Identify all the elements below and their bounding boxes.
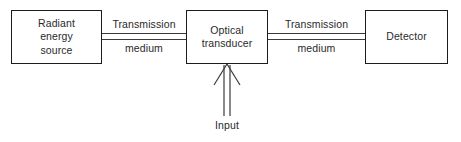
block-detector[interactable]: Detector [365,10,448,64]
connector-rule-lower [100,39,188,40]
block-label-radiant-energy-source: Radiant energy source [38,17,75,58]
block-label-optical-transducer: Optical transducer [202,24,253,51]
connector-source-to-transducer [100,33,188,40]
connector-label-transmission-right: Transmission [266,18,367,31]
diagram-canvas: Radiant energy source Optical transducer… [0,0,461,142]
block-radiant-energy-source[interactable]: Radiant energy source [11,10,102,64]
connector-rule-lower [266,39,367,40]
block-optical-transducer[interactable]: Optical transducer [186,10,268,64]
connector-rule-upper [100,33,188,34]
input-arrow-icon [206,60,248,118]
input-arrow-label: Input [187,119,267,132]
connector-label-medium-left: medium [100,42,188,55]
input-arrow-svg [206,60,248,118]
connector-rule-upper [266,33,367,34]
connector-label-transmission-left: Transmission [100,18,188,31]
connector-transducer-to-detector [266,33,367,40]
block-label-detector: Detector [386,30,426,44]
connector-label-medium-right: medium [266,42,367,55]
